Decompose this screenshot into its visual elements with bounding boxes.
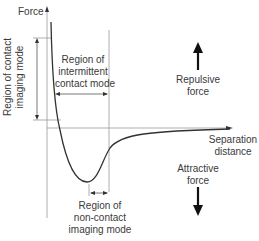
- contact-region-label-line1: Region of contact: [2, 29, 14, 125]
- separation-distance-label: Separation distance: [205, 134, 259, 158]
- y-axis-label: Force: [18, 6, 44, 18]
- contact-region-label-line2: imaging mode: [14, 29, 26, 125]
- repulsive-label-line1: Repulsive: [176, 74, 220, 86]
- noncontact-label-line3: imaging mode: [68, 224, 132, 236]
- intermittent-region-label: Region of intermittent contact mode: [55, 54, 111, 90]
- up-arrow-icon: [193, 42, 203, 70]
- noncontact-label-line2: non-contact: [68, 212, 132, 224]
- noncontact-region-label: Region of non-contact imaging mode: [68, 200, 132, 236]
- down-arrow-icon: [193, 187, 203, 216]
- separation-label-line1: Separation: [205, 134, 259, 146]
- repulsive-force-label: Repulsive force: [176, 74, 220, 98]
- noncontact-region-bracket: [89, 184, 108, 196]
- contact-region-label: Region of contact imaging mode: [0, 71, 48, 97]
- noncontact-label-line1: Region of: [68, 200, 132, 212]
- attractive-label-line1: Attractive: [176, 163, 220, 175]
- intermittent-label-line3: contact mode: [55, 78, 111, 90]
- attractive-label-line2: force: [176, 175, 220, 187]
- intermittent-label-line2: intermittent: [55, 66, 111, 78]
- force-curve: [51, 22, 230, 182]
- attractive-force-label: Attractive force: [176, 163, 220, 187]
- intermittent-label-line1: Region of: [55, 54, 111, 66]
- separation-label-line2: distance: [205, 146, 259, 158]
- repulsive-label-line2: force: [176, 86, 220, 98]
